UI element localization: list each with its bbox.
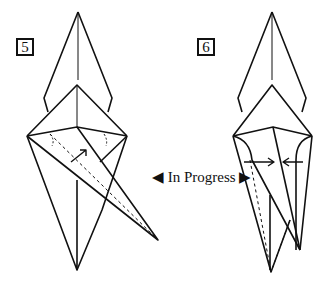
origami-diagram — [0, 0, 331, 284]
step-6-figure — [233, 12, 312, 272]
step-5-figure — [27, 12, 158, 270]
